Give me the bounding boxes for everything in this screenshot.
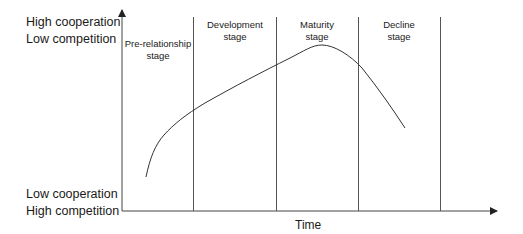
stage-label-line: Decline [358,19,440,31]
y-axis-bottom-label-line2: High competition [26,203,119,220]
stage-label-line: Maturity [276,19,358,31]
stage-label-line: stage [117,50,199,62]
stage-label-line: Development [194,19,276,31]
stage-label-decline: Decline stage [358,19,440,43]
stage-label-development: Development stage [194,19,276,43]
x-axis-label: Time [295,218,321,232]
y-axis-bottom-label: Low cooperation High competition [26,186,119,220]
stage-label-line: stage [194,31,276,43]
stage-label-line: Pre-relationship [117,38,199,50]
relationship-curve [146,45,405,177]
stage-label-line: stage [276,31,358,43]
stage-label-pre-relationship: Pre-relationship stage [117,38,199,62]
stage-label-line: stage [358,31,440,43]
y-axis-top-label: High cooperation Low competition [26,14,121,48]
stage-label-maturity: Maturity stage [276,19,358,43]
y-axis-bottom-label-line1: Low cooperation [26,186,119,203]
y-axis-top-label-line2: Low competition [26,31,121,48]
y-axis-top-label-line1: High cooperation [26,14,121,31]
